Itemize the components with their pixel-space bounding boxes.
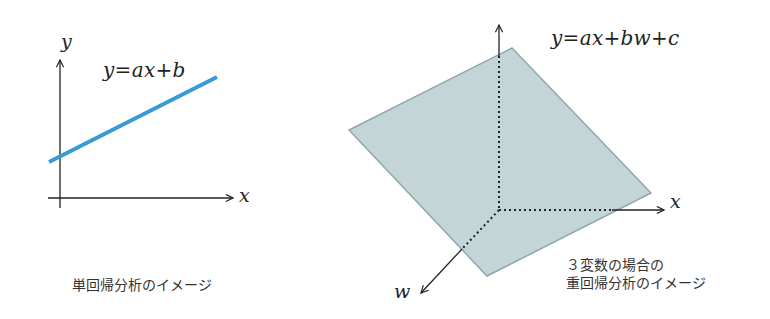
x-axis-label: x (239, 184, 250, 206)
y-axis-label: y (61, 30, 72, 52)
simple-regression-caption: 単回帰分析のイメージ (72, 276, 212, 294)
multiple-regression-equation: y=ax+bw+c (551, 26, 680, 50)
caption-line-1: ３変数の場合の (566, 256, 706, 274)
multiple-regression-graphic (349, 25, 664, 293)
regression-line (49, 77, 217, 162)
w-axis-3d-label: w (394, 280, 410, 302)
multiple-regression-caption: ３変数の場合の 重回帰分析のイメージ (566, 256, 706, 292)
simple-regression-equation: y=ax+b (103, 58, 186, 82)
regression-diagram: y y=ax+b x 単回帰分析のイメージ y=ax+bw+c x w ３変数の… (0, 0, 770, 319)
caption-line-2: 重回帰分析のイメージ (566, 274, 706, 292)
x-axis-3d-label: x (670, 190, 681, 212)
w-axis-3d (421, 249, 462, 293)
